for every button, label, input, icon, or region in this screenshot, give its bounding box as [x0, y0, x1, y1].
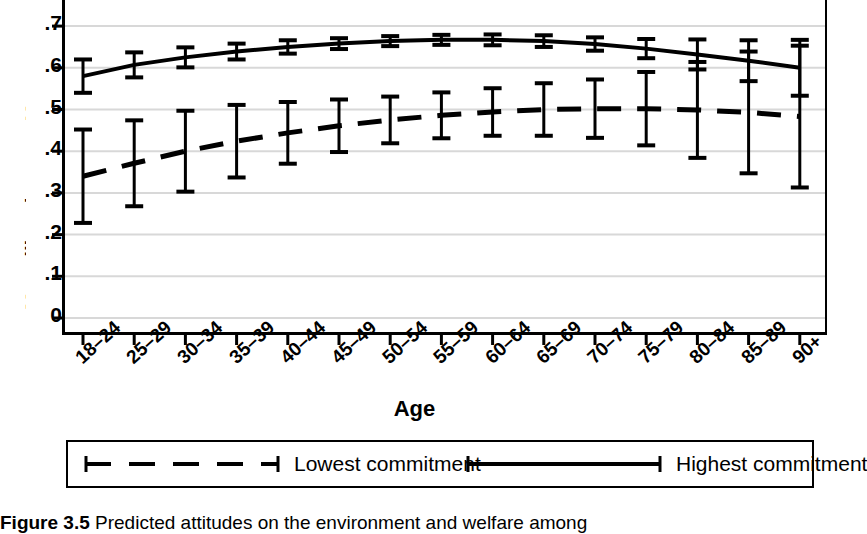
y-tick-label: .6 [28, 53, 62, 77]
legend-item-highest-commitment[interactable]: Highest commitment [464, 442, 867, 486]
legend-swatch-solid-icon [464, 452, 664, 476]
y-tick-label: .3 [28, 178, 62, 202]
y-tick-label: 0 [28, 303, 62, 327]
chart-legend: Lowest commitment Highest commitment [66, 440, 814, 488]
gridlines-group [64, 26, 826, 318]
x-axis-title: Age [0, 396, 829, 422]
y-tick-labels: 0.1.2.3.4.5.6.7 [24, 0, 62, 345]
y-tick-label: .1 [28, 261, 62, 285]
y-tick-label: .5 [28, 95, 62, 119]
legend-item-lowest-commitment[interactable]: Lowest commitment [82, 442, 481, 486]
y-tick-label: .7 [28, 11, 62, 35]
figure-caption-label: Figure 3.5 [0, 512, 90, 533]
legend-label-lowest-commitment: Lowest commitment [294, 452, 481, 476]
chart-plot-area: 0.1.2.3.4.5.6.7 More conservative More l… [0, 0, 829, 345]
y-tick-label: .2 [28, 220, 62, 244]
y-axis-title-conservative-text: More conservative [22, 0, 26, 120]
y-tick-label: .4 [28, 136, 62, 160]
series-lowest-commitment [74, 46, 809, 223]
figure-caption: Figure 3.5 Predicted attitudes on the en… [0, 512, 829, 534]
chart-svg [0, 0, 829, 345]
legend-swatch-dashed-icon [82, 452, 282, 476]
y-axis-title-liberal-text: More liberal [22, 198, 26, 310]
y-axis-title-conservative: More conservative [2, 0, 26, 120]
y-axis-title-liberal: More liberal [2, 170, 26, 320]
data-series-group [74, 34, 809, 222]
legend-label-highest-commitment: Highest commitment [676, 452, 867, 476]
figure-caption-text: Predicted attitudes on the environment a… [95, 512, 587, 533]
